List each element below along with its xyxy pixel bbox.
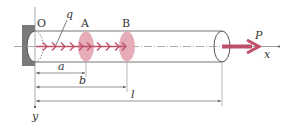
label-p: P	[254, 29, 263, 42]
label-origin: O	[37, 17, 46, 30]
q-leader	[56, 20, 67, 45]
label-x-axis: x	[264, 48, 271, 61]
label-a-point: A	[80, 17, 90, 30]
distributed-load-q	[36, 43, 126, 51]
label-y-axis: y	[31, 110, 39, 123]
label-dim-l: l	[131, 88, 135, 101]
label-dim-a: a	[58, 60, 65, 73]
bar-diagram: O q A B P x y a b l	[0, 0, 293, 129]
label-q: q	[66, 8, 73, 21]
label-b-point: B	[122, 17, 130, 30]
label-dim-b: b	[79, 74, 86, 87]
